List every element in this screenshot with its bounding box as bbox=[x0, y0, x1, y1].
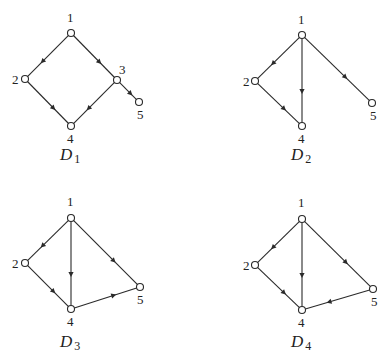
edge-2-to-4 bbox=[27, 265, 68, 306]
node-1 bbox=[299, 216, 306, 223]
node-label: 4 bbox=[67, 131, 74, 146]
node-2 bbox=[22, 76, 29, 83]
edge-1-to-3 bbox=[73, 36, 114, 78]
graph-title: D2 bbox=[290, 145, 311, 166]
edge-3-to-5 bbox=[119, 82, 136, 99]
node-4 bbox=[68, 306, 75, 313]
node-3 bbox=[114, 77, 121, 84]
graph-title: D1 bbox=[59, 145, 80, 166]
graph-title: D4 bbox=[290, 332, 311, 353]
node-1 bbox=[68, 30, 75, 37]
directed-graphs-figure: 12345D11245D21245D31245D4 bbox=[0, 0, 390, 363]
node-label: 2 bbox=[12, 256, 19, 271]
edge-2-to-4 bbox=[258, 267, 300, 307]
node-2 bbox=[252, 262, 259, 269]
node-label: 5 bbox=[137, 292, 144, 307]
node-5 bbox=[136, 99, 143, 106]
graph-d1: 12345D1 bbox=[12, 10, 144, 166]
node-2 bbox=[22, 260, 29, 267]
node-5 bbox=[369, 100, 376, 107]
node-label: 1 bbox=[298, 12, 305, 27]
graph-d3: 1245D3 bbox=[12, 194, 144, 353]
edge-2-to-4 bbox=[258, 83, 300, 123]
edge-1-to-2 bbox=[27, 35, 68, 76]
edge-1-to-5 bbox=[73, 220, 137, 284]
node-label: 2 bbox=[243, 74, 250, 89]
node-4 bbox=[299, 123, 306, 130]
node-label: 5 bbox=[370, 108, 377, 123]
node-4 bbox=[299, 307, 306, 314]
edge-3-to-4 bbox=[73, 82, 114, 123]
arrowhead-icon bbox=[68, 272, 73, 277]
edge-2-to-4 bbox=[27, 82, 68, 124]
node-label: 5 bbox=[137, 107, 144, 122]
edge-4-to-5 bbox=[74, 288, 136, 308]
node-1 bbox=[299, 32, 306, 39]
node-2 bbox=[252, 78, 259, 85]
edge-1-to-2 bbox=[258, 37, 300, 78]
node-label: 1 bbox=[67, 194, 74, 209]
node-5 bbox=[137, 284, 144, 291]
arrowhead-icon bbox=[299, 89, 304, 94]
node-label: 2 bbox=[12, 72, 19, 87]
graph-d2: 1245D2 bbox=[243, 12, 377, 166]
node-label: 1 bbox=[67, 10, 74, 25]
edge-1-to-2 bbox=[258, 221, 300, 262]
node-1 bbox=[68, 215, 75, 222]
edge-1-to-2 bbox=[28, 220, 69, 260]
node-4 bbox=[68, 123, 75, 130]
node-5 bbox=[370, 286, 377, 293]
arrowhead-icon bbox=[299, 273, 304, 278]
node-label: 3 bbox=[119, 62, 126, 77]
node-label: 4 bbox=[67, 314, 74, 329]
node-label: 4 bbox=[298, 315, 305, 330]
graph-d4: 1245D4 bbox=[243, 195, 378, 353]
node-label: 5 bbox=[371, 294, 378, 309]
node-label: 2 bbox=[243, 258, 250, 273]
node-label: 4 bbox=[298, 131, 305, 146]
edge-5-to-4 bbox=[305, 290, 369, 309]
edge-1-to-5 bbox=[304, 221, 370, 286]
graph-title: D3 bbox=[59, 332, 80, 353]
edge-1-to-5 bbox=[305, 37, 370, 100]
node-label: 1 bbox=[298, 195, 305, 210]
